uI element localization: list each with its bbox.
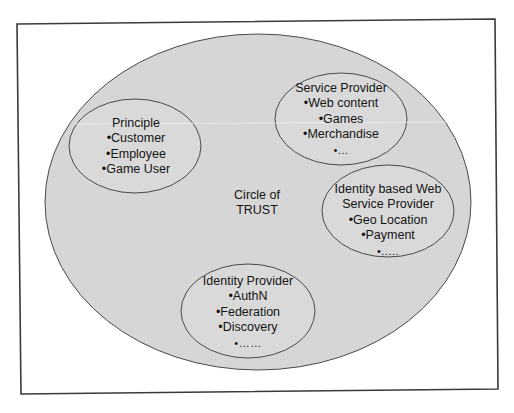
group-title: Principle — [102, 116, 170, 131]
list-item: •Discovery — [203, 320, 293, 335]
list-item: •..... — [335, 244, 442, 259]
list-item: •Games — [295, 112, 387, 127]
circle-of-trust-label: Circle of TRUST — [234, 188, 280, 219]
list-item: •AuthN — [203, 289, 293, 304]
diagram-stage: Circle of TRUST Principle •Customer •Emp… — [0, 0, 514, 413]
list-item: •Employee — [102, 147, 170, 162]
list-item: •Web content — [295, 96, 387, 111]
group-title: Service Provider — [335, 197, 442, 212]
group-title: Identity Provider — [203, 274, 293, 289]
list-item: •Merchandise — [295, 127, 387, 142]
list-item: •Game User — [102, 162, 170, 177]
list-item: •Customer — [102, 131, 170, 146]
identity-based-wsp-group: Identity based Web Service Provider •Geo… — [335, 182, 442, 259]
circle-of-trust-title-line: TRUST — [234, 203, 280, 218]
principle-group: Principle •Customer •Employee •Game User — [102, 116, 170, 178]
service-provider-group: Service Provider •Web content •Games •Me… — [295, 81, 387, 158]
list-item: •Geo Location — [335, 213, 442, 228]
identity-provider-group: Identity Provider •AuthN •Federation •Di… — [203, 274, 293, 351]
group-title: Service Provider — [295, 81, 387, 96]
list-item: •…… — [203, 336, 293, 351]
list-item: •Payment — [335, 228, 442, 243]
list-item: •... — [295, 143, 387, 158]
circle-of-trust-title-line: Circle of — [234, 188, 280, 203]
list-item: •Federation — [203, 305, 293, 320]
group-title: Identity based Web — [335, 182, 442, 197]
